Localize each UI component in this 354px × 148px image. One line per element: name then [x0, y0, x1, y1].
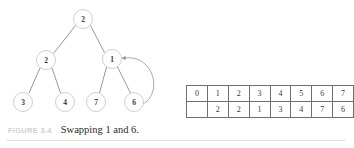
tree-node-rl: 7 — [87, 93, 106, 112]
figure-caption: FIGURE 3.4 Swapping 1 and 6. — [8, 124, 139, 135]
array-index-cell: 1 — [207, 86, 228, 102]
tree-svg: 2 2 1 3 4 7 6 — [0, 0, 180, 122]
binary-tree-diagram: 2 2 1 3 4 7 6 — [0, 0, 180, 122]
tree-edge-right-rl — [100, 67, 107, 93]
caption-divider-rule — [6, 140, 346, 141]
array-value-cell: 2 — [228, 102, 249, 118]
array-index-cell: 2 — [228, 86, 249, 102]
node-label: 2 — [44, 56, 48, 65]
tree-edge-root-right — [91, 26, 105, 53]
node-label: 4 — [63, 98, 67, 107]
array-index-cell: 5 — [291, 86, 312, 102]
tree-edge-right-rr — [118, 67, 131, 93]
tree-node-rr: 6 — [125, 93, 144, 112]
tree-node-left: 2 — [37, 51, 56, 70]
array-value-row: 2 2 1 3 4 7 6 — [187, 102, 354, 118]
array-table: 0 1 2 3 4 5 6 7 2 2 1 3 4 7 6 — [186, 85, 354, 118]
array-index-cell: 4 — [270, 86, 291, 102]
array-index-cell: 7 — [333, 86, 354, 102]
array-index-cell: 6 — [312, 86, 333, 102]
tree-node-right: 1 — [103, 50, 122, 69]
node-label: 1 — [110, 55, 114, 64]
array-value-cell: 3 — [270, 102, 291, 118]
node-label: 2 — [81, 15, 85, 24]
node-label: 3 — [21, 98, 25, 107]
tree-node-ll: 3 — [14, 93, 33, 112]
array-value-cell: 6 — [333, 102, 354, 118]
tree-edge-root-left — [54, 26, 76, 54]
figure-container: 2 2 1 3 4 7 6 — [0, 0, 354, 148]
node-label: 7 — [94, 98, 98, 107]
node-label: 6 — [132, 98, 136, 107]
array-value-cell: 4 — [291, 102, 312, 118]
figure-caption-text: Swapping 1 and 6. — [61, 124, 139, 135]
array-value-cell-empty — [187, 102, 208, 118]
tree-edge-left-ll — [29, 68, 40, 93]
figure-caption-tag: FIGURE 3.4 — [8, 126, 52, 135]
array-index-cell: 0 — [187, 86, 208, 102]
tree-edge-left-lr — [52, 68, 61, 93]
tree-node-root: 2 — [74, 10, 93, 29]
swap-arrow-head-icon — [122, 56, 126, 60]
array-index-cell: 3 — [249, 86, 270, 102]
array-index-row: 0 1 2 3 4 5 6 7 — [187, 86, 354, 102]
tree-node-lr: 4 — [56, 93, 75, 112]
array-value-cell: 7 — [312, 102, 333, 118]
array-value-cell: 2 — [207, 102, 228, 118]
array-value-cell: 1 — [249, 102, 270, 118]
